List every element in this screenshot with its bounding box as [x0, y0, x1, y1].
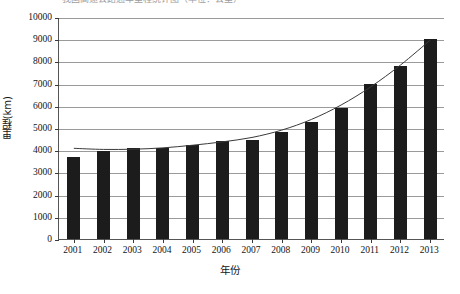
y-tick-mark: [55, 151, 59, 152]
x-tick-mark: [430, 239, 431, 243]
bar: [335, 108, 348, 239]
x-tick-mark: [74, 239, 75, 243]
bar: [186, 145, 199, 239]
bar: [394, 66, 407, 239]
x-tick-mark: [341, 239, 342, 243]
x-tick-mark: [252, 239, 253, 243]
y-tick-label: 4000: [4, 146, 52, 156]
x-tick-mark: [400, 239, 401, 243]
bar: [67, 157, 80, 239]
x-tick-mark: [371, 239, 372, 243]
x-tick-mark: [133, 239, 134, 243]
gridline: [59, 107, 444, 108]
gridline: [59, 62, 444, 63]
gridline: [59, 40, 444, 41]
x-tick-mark: [193, 239, 194, 243]
y-tick-label: 9000: [4, 35, 52, 45]
bar: [305, 122, 318, 239]
y-tick-mark: [55, 40, 59, 41]
y-tick-label: 2000: [4, 191, 52, 201]
bar: [156, 148, 169, 239]
y-tick-mark: [55, 107, 59, 108]
gridline: [59, 129, 444, 130]
y-tick-label: 7000: [4, 80, 52, 90]
x-tick-label: 2013: [412, 245, 446, 255]
bar: [424, 39, 437, 239]
y-tick-label: 5000: [4, 124, 52, 134]
x-tick-mark: [222, 239, 223, 243]
y-tick-mark: [55, 129, 59, 130]
y-tick-label: 1000: [4, 213, 52, 223]
y-tick-label: 8000: [4, 57, 52, 67]
y-tick-mark: [55, 240, 59, 241]
y-tick-label: 0: [4, 235, 52, 245]
bar-chart: 我国高速公路通车里程统计图（单位：公里） 里程(km) 010002000300…: [0, 0, 460, 294]
x-tick-mark: [163, 239, 164, 243]
y-tick-mark: [55, 196, 59, 197]
bar: [216, 141, 229, 239]
bar: [246, 140, 259, 239]
y-tick-mark: [55, 173, 59, 174]
chart-title: 我国高速公路通车里程统计图（单位：公里）: [62, 0, 382, 5]
x-tick-mark: [282, 239, 283, 243]
bar: [275, 132, 288, 239]
gridline: [59, 18, 444, 19]
plot-area: [58, 18, 444, 240]
bar: [97, 151, 110, 239]
y-tick-mark: [55, 62, 59, 63]
gridline: [59, 85, 444, 86]
y-tick-label: 6000: [4, 102, 52, 112]
x-tick-mark: [311, 239, 312, 243]
y-tick-mark: [55, 218, 59, 219]
y-tick-mark: [55, 85, 59, 86]
y-tick-mark: [55, 18, 59, 19]
y-tick-label: 3000: [4, 168, 52, 178]
y-tick-label: 10000: [4, 13, 52, 23]
x-axis-label: 年份: [0, 262, 460, 277]
bar: [364, 84, 377, 239]
bar: [127, 148, 140, 239]
x-tick-mark: [104, 239, 105, 243]
